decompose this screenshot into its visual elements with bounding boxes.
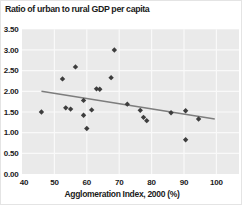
chart: Ratio of urban to rural GDP per capita 3… <box>0 0 242 205</box>
y-tick-label: 1.00 <box>4 128 20 137</box>
y-tick-label: 1.50 <box>4 108 20 117</box>
scatter-plot-area: 3.503.002.502.001.501.000.500.0040506070… <box>1 1 242 205</box>
x-tick-label: 90 <box>180 178 189 187</box>
y-tick-label: 0.00 <box>4 170 20 179</box>
x-tick-label: 60 <box>83 178 92 187</box>
x-tick-label: 80 <box>147 178 156 187</box>
y-tick-label: 3.50 <box>4 25 20 34</box>
y-tick-label: 2.00 <box>4 87 20 96</box>
y-tick-label: 2.50 <box>4 66 20 75</box>
x-axis-title: Agglomeration Index, 2000 (%) <box>1 189 242 199</box>
x-tick-label: 50 <box>50 178 59 187</box>
y-tick-label: 0.50 <box>4 149 20 158</box>
x-tick-label: 70 <box>115 178 124 187</box>
x-tick-label: 40 <box>20 178 29 187</box>
y-tick-label: 3.00 <box>4 46 20 55</box>
x-tick-label: 100 <box>210 178 223 187</box>
